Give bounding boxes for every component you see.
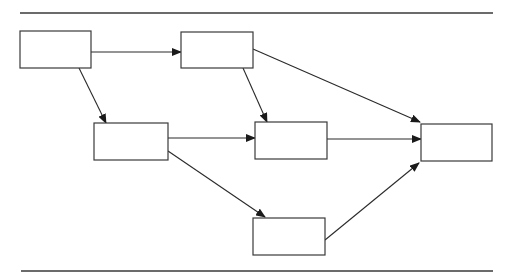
node-box xyxy=(253,218,325,255)
arrow-F-to-E xyxy=(325,163,419,240)
node-box xyxy=(181,32,253,68)
node-A xyxy=(20,31,91,68)
node-F xyxy=(253,218,325,255)
node-box xyxy=(421,124,492,161)
arrow-B-to-D xyxy=(243,68,267,122)
flow-diagram xyxy=(0,0,508,274)
node-box xyxy=(94,123,168,160)
arrow-A-to-C xyxy=(79,68,106,123)
arrow-B-to-E xyxy=(253,49,420,122)
node-E xyxy=(421,124,492,161)
node-D xyxy=(255,122,327,159)
node-box xyxy=(20,31,91,68)
nodes xyxy=(20,31,492,255)
arrow-C-to-F xyxy=(168,151,265,217)
node-C xyxy=(94,123,168,160)
node-box xyxy=(255,122,327,159)
node-B xyxy=(181,32,253,68)
